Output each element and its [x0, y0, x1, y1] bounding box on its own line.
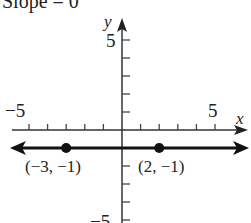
coordinate-plane: Slope = 0 −5 5 x [0, 0, 251, 223]
chart-title: Slope = 0 [2, 0, 79, 13]
x-tick-label-neg5: −5 [5, 100, 25, 121]
horizontal-line-y-neg1 [10, 141, 249, 155]
x-axis-label: x [235, 109, 244, 128]
x-axis: −5 5 x [5, 100, 248, 135]
point-label-neg3-neg1: (−3, −1) [25, 157, 81, 176]
y-axis-label: y [102, 12, 112, 31]
point-label-2-neg1: (2, −1) [138, 157, 184, 176]
y-axis: y 5 −5 [90, 12, 130, 223]
point-neg3-neg1 [61, 143, 71, 153]
x-tick-label-5: 5 [208, 100, 218, 121]
y-tick-label-neg5: −5 [90, 211, 110, 223]
point-2-neg1 [154, 143, 164, 153]
y-tick-label-5: 5 [106, 30, 116, 51]
